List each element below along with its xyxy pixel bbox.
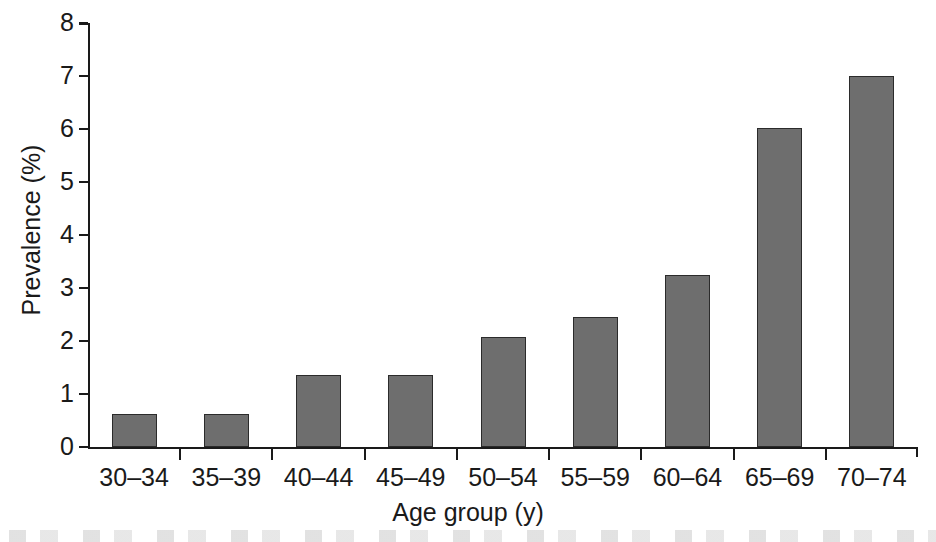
bar-30–34 bbox=[112, 414, 157, 447]
bar-chart-figure: Prevalence (%) 012345678 30–3435–3940–44… bbox=[0, 0, 936, 542]
x-axis-tick-1 bbox=[179, 449, 181, 460]
y-axis-tick-8 bbox=[79, 22, 88, 24]
x-axis-label-50–54: 50–54 bbox=[457, 462, 549, 492]
x-axis-label-55–59: 55–59 bbox=[549, 462, 641, 492]
bar-60–64 bbox=[665, 275, 710, 447]
x-axis-tick-6 bbox=[640, 449, 642, 460]
bar-65–69 bbox=[757, 128, 802, 447]
x-axis-tick-7 bbox=[733, 449, 735, 460]
x-axis-label-30–34: 30–34 bbox=[88, 462, 180, 492]
y-axis-label-5: 5 bbox=[34, 169, 74, 194]
bar-40–44 bbox=[296, 375, 341, 447]
bar-35–39 bbox=[204, 414, 249, 447]
x-axis-label-70–74: 70–74 bbox=[826, 462, 918, 492]
x-axis-label-35–39: 35–39 bbox=[180, 462, 272, 492]
bar-70–74 bbox=[849, 76, 894, 447]
bar-series bbox=[88, 23, 918, 447]
scan-artifact-strip bbox=[0, 530, 936, 542]
bar-55–59 bbox=[573, 317, 618, 447]
y-axis-tick-4 bbox=[79, 234, 88, 236]
y-axis-label-3: 3 bbox=[34, 275, 74, 300]
bar-45–49 bbox=[388, 375, 433, 447]
x-axis-tick-3 bbox=[364, 449, 366, 460]
y-axis-tick-7 bbox=[79, 75, 88, 77]
x-axis-line bbox=[88, 447, 918, 449]
x-axis-tick-labels: 30–3435–3940–4445–4950–5455–5960–6465–69… bbox=[88, 462, 918, 496]
y-axis-label-7: 7 bbox=[34, 63, 74, 88]
y-axis-label-0: 0 bbox=[34, 434, 74, 459]
y-axis-label-4: 4 bbox=[34, 222, 74, 247]
y-axis-tick-2 bbox=[79, 340, 88, 342]
y-axis-label-2: 2 bbox=[34, 328, 74, 353]
y-axis-label-6: 6 bbox=[34, 116, 74, 141]
x-axis-label-60–64: 60–64 bbox=[641, 462, 733, 492]
bar-50–54 bbox=[481, 337, 526, 447]
x-axis-label-65–69: 65–69 bbox=[734, 462, 826, 492]
x-axis-title: Age group (y) bbox=[0, 497, 936, 527]
y-axis-label-1: 1 bbox=[34, 381, 74, 406]
y-axis-tick-0 bbox=[79, 446, 88, 448]
x-axis-tick-2 bbox=[271, 449, 273, 460]
x-axis-label-45–49: 45–49 bbox=[365, 462, 457, 492]
x-axis-end-cap bbox=[916, 447, 918, 457]
y-axis-label-8: 8 bbox=[34, 10, 74, 35]
y-axis-tick-5 bbox=[79, 181, 88, 183]
y-axis-tick-labels: 012345678 bbox=[22, 0, 74, 542]
x-axis-label-40–44: 40–44 bbox=[273, 462, 365, 492]
x-axis-tick-8 bbox=[825, 449, 827, 460]
y-axis-tick-6 bbox=[79, 128, 88, 130]
y-axis-tick-3 bbox=[79, 287, 88, 289]
x-axis-tick-4 bbox=[456, 449, 458, 460]
x-axis-tick-5 bbox=[548, 449, 550, 460]
y-axis-tick-1 bbox=[79, 393, 88, 395]
